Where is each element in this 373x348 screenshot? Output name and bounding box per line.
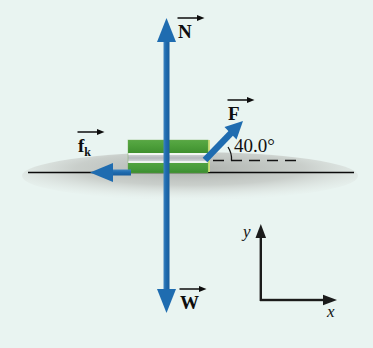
weight-force-label: W [180,293,199,312]
y-axis-label: y [243,223,251,240]
coordinate-axes [256,224,338,305]
friction-force-subscript: k [84,145,91,159]
angle-label: 40.0° [234,136,275,155]
normal-force-symbol: N [178,21,192,42]
normal-force-label: N [178,22,192,41]
applied-force-label: F [228,104,240,123]
applied-force-symbol: F [228,103,240,124]
friction-force-symbol: f [78,135,84,156]
y-axis [256,224,267,301]
friction-force-label: f k [78,136,91,158]
weight-force-symbol: W [180,292,199,313]
x-axis-label: x [327,303,335,320]
x-axis [260,295,337,306]
free-body-diagram: N W F f k 40. [0,0,373,348]
